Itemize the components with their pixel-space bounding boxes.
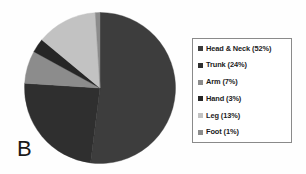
pie-slice xyxy=(91,13,176,164)
legend-item-label: Leg (13%) xyxy=(206,112,240,120)
legend-item: Trunk (24%) xyxy=(198,60,287,71)
chart-legend: Head & Neck (52%)Trunk (24%)Arm (7%)Hand… xyxy=(192,38,292,143)
legend-swatch-icon xyxy=(198,113,203,118)
legend-swatch-icon xyxy=(198,96,203,101)
legend-item: Foot (1%) xyxy=(198,127,287,138)
panel-label-b: B xyxy=(17,138,32,160)
legend-swatch-icon xyxy=(198,80,203,85)
legend-item: Leg (13%) xyxy=(198,110,287,121)
legend-item-label: Arm (7%) xyxy=(206,78,238,86)
legend-item: Head & Neck (52%) xyxy=(198,43,287,54)
legend-item-label: Foot (1%) xyxy=(206,128,239,136)
figure-panel-b: B Head & Neck (52%)Trunk (24%)Arm (7%)Ha… xyxy=(0,0,306,174)
legend-list: Head & Neck (52%)Trunk (24%)Arm (7%)Hand… xyxy=(198,43,287,138)
pie-slice xyxy=(24,83,100,163)
legend-swatch-icon xyxy=(198,46,203,51)
legend-swatch-icon xyxy=(198,63,203,68)
legend-swatch-icon xyxy=(198,130,203,135)
pie-slice-group xyxy=(24,13,175,164)
legend-item-label: Head & Neck (52%) xyxy=(206,45,271,53)
legend-item-label: Trunk (24%) xyxy=(206,61,247,69)
legend-item: Arm (7%) xyxy=(198,77,287,88)
legend-item-label: Hand (3%) xyxy=(206,95,241,103)
pie-chart-svg xyxy=(24,12,176,164)
legend-item: Hand (3%) xyxy=(198,93,287,104)
pie-chart xyxy=(24,12,176,164)
